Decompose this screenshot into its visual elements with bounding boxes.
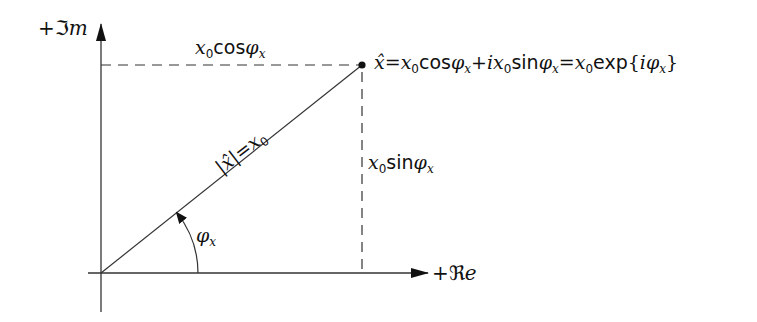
pe-t1-sub: 0 xyxy=(411,62,419,76)
pe-t2-angle-sub: x xyxy=(552,62,559,76)
vertical-projection-label: x0sinφx xyxy=(368,153,434,175)
imag-sign: + xyxy=(38,16,55,40)
pe-t3-angle-sub: x xyxy=(659,62,666,76)
pe-t3-angle: φ xyxy=(646,51,659,73)
vp-fn: sin xyxy=(386,151,413,173)
real-symbol: ℜ xyxy=(449,261,465,285)
horizontal-projection-label: x0cosφx xyxy=(195,38,265,60)
pe-t1-var: x xyxy=(401,51,412,73)
pe-t3-sub: 0 xyxy=(585,62,593,76)
real-axis-label: +ℜe xyxy=(432,263,477,283)
pe-t3-fn: exp xyxy=(593,51,628,73)
angle-arc xyxy=(177,213,198,273)
imag-symbol: ℑ xyxy=(55,16,69,40)
hp-angle: φ xyxy=(245,36,258,58)
vp-var: x xyxy=(368,151,379,173)
pe-eq2: = xyxy=(559,51,575,73)
pe-t2-angle: φ xyxy=(539,51,552,73)
angle-symbol: φ xyxy=(196,224,209,246)
pe-t1-fn: cos xyxy=(419,51,451,73)
pe-open-brace: { xyxy=(628,51,640,73)
imaginary-axis-label: +ℑm xyxy=(38,18,88,38)
imag-suffix: m xyxy=(69,16,88,40)
real-sign: + xyxy=(432,261,449,285)
complex-plane-diagram: +ℑm +ℜe x0cosφx x0sinφx |x̂|=x0 φx x̂=x0… xyxy=(0,0,757,322)
pe-lhs: x̂ xyxy=(374,51,385,73)
hp-fn: cos xyxy=(213,36,245,58)
phasor-point xyxy=(358,61,365,68)
real-suffix: e xyxy=(465,261,477,285)
pe-close-brace: } xyxy=(666,51,678,73)
pe-plus: + xyxy=(471,51,487,73)
pe-t3-var: x xyxy=(575,51,586,73)
pe-eq1: = xyxy=(385,51,401,73)
hp-var: x xyxy=(195,36,206,58)
hp-angle-sub: x xyxy=(259,47,266,61)
point-equation: x̂=x0cosφx+ix0sinφx=x0exp{iφx} xyxy=(374,53,678,75)
angle-sub: x xyxy=(209,235,216,249)
pe-t2-var: x xyxy=(493,51,504,73)
pe-t1-angle: φ xyxy=(451,51,464,73)
vp-angle: φ xyxy=(414,151,427,173)
angle-label: φx xyxy=(196,226,216,248)
vp-angle-sub: x xyxy=(427,162,434,176)
pe-t2-fn: sin xyxy=(511,51,538,73)
